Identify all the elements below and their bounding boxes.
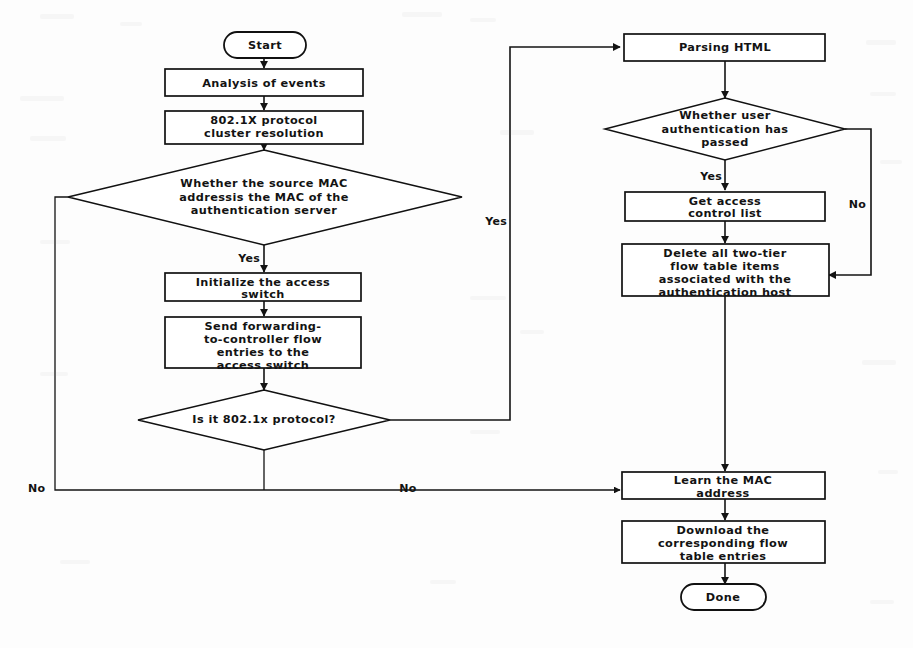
node-learn-mac-line2: address bbox=[696, 487, 749, 500]
node-user-auth-line3: passed bbox=[701, 136, 748, 149]
node-send-forwarding-entries[interactable]: Send forwarding- to-controller flow entr… bbox=[165, 317, 361, 372]
node-user-auth-line2: authentication has bbox=[661, 123, 788, 136]
edge-label-is-8021x-no: No bbox=[399, 482, 417, 495]
node-send-forwarding-line3: entries to the bbox=[217, 346, 310, 359]
node-user-auth-line1: Whether user bbox=[679, 109, 771, 122]
node-learn-mac-address[interactable]: Learn the MAC address bbox=[622, 472, 825, 500]
edge-label-user-auth-yes: Yes bbox=[699, 170, 722, 183]
node-delete-line3: associated with the bbox=[659, 273, 792, 286]
node-download-line3: table entries bbox=[680, 550, 767, 563]
flowchart-svg: Start Analysis of events 802.1X protocol… bbox=[0, 0, 913, 648]
edge-is8021x-yes-to-parsing-html bbox=[390, 47, 620, 420]
node-start-label: Start bbox=[248, 39, 282, 52]
node-delete-line2: flow table items bbox=[670, 260, 779, 273]
node-parsing-html-label: Parsing HTML bbox=[679, 41, 771, 54]
node-get-access-control-list[interactable]: Get access control list bbox=[625, 192, 825, 221]
node-done-label: Done bbox=[706, 591, 740, 604]
node-analysis-of-events-label: Analysis of events bbox=[202, 77, 326, 90]
flowchart-canvas: Start Analysis of events 802.1X protocol… bbox=[0, 0, 913, 648]
edge-label-is-8021x-yes: Yes bbox=[484, 215, 507, 228]
node-delete-line1: Delete all two-tier bbox=[663, 247, 786, 260]
node-source-mac-decision[interactable]: Whether the source MAC addressis the MAC… bbox=[68, 150, 462, 245]
node-learn-mac-line1: Learn the MAC bbox=[674, 474, 773, 487]
node-is-8021x-label: Is it 802.1x protocol? bbox=[192, 413, 335, 426]
node-analysis-of-events[interactable]: Analysis of events bbox=[165, 69, 363, 96]
node-protocol-cluster-line2: cluster resolution bbox=[204, 127, 324, 140]
node-source-mac-decision-line2: addressis the MAC of the bbox=[179, 191, 349, 204]
node-protocol-cluster-resolution[interactable]: 802.1X protocol cluster resolution bbox=[165, 111, 363, 144]
edge-label-source-mac-yes: Yes bbox=[237, 252, 260, 265]
node-initialize-access-switch[interactable]: Initialize the access switch bbox=[165, 273, 361, 301]
node-is-8021x-decision[interactable]: Is it 802.1x protocol? bbox=[138, 390, 390, 450]
node-get-acl-line1: Get access bbox=[689, 195, 761, 208]
node-done[interactable]: Done bbox=[681, 584, 766, 610]
node-delete-flow-table-items[interactable]: Delete all two-tier flow table items ass… bbox=[622, 244, 829, 299]
node-start[interactable]: Start bbox=[224, 32, 306, 58]
node-send-forwarding-line2: to-controller flow bbox=[204, 333, 322, 346]
node-get-acl-line2: control list bbox=[688, 207, 762, 220]
edge-label-user-auth-no: No bbox=[849, 198, 867, 211]
node-send-forwarding-line1: Send forwarding- bbox=[205, 320, 322, 333]
node-initialize-line1: Initialize the access bbox=[196, 276, 331, 289]
node-user-auth-decision[interactable]: Whether user authentication has passed bbox=[605, 98, 845, 160]
node-source-mac-decision-line3: authentication server bbox=[191, 204, 337, 217]
node-parsing-html[interactable]: Parsing HTML bbox=[624, 34, 825, 61]
node-delete-line4: authentication host bbox=[659, 286, 792, 299]
node-download-line1: Download the bbox=[677, 524, 770, 537]
node-download-line2: corresponding flow bbox=[658, 537, 788, 550]
node-download-flow-entries[interactable]: Download the corresponding flow table en… bbox=[622, 521, 825, 563]
node-protocol-cluster-line1: 802.1X protocol bbox=[210, 114, 317, 127]
node-initialize-line2: switch bbox=[241, 288, 285, 301]
node-send-forwarding-line4: access switch bbox=[217, 359, 309, 372]
node-source-mac-decision-line1: Whether the source MAC bbox=[180, 177, 347, 190]
edge-label-source-mac-no: No bbox=[28, 482, 46, 495]
